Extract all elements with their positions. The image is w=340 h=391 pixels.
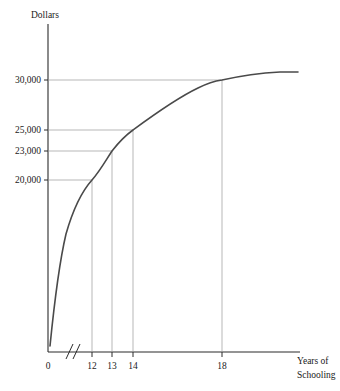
- x-tick-label-0: 0: [46, 361, 51, 371]
- earnings-curve: [50, 72, 298, 346]
- x-axis-title-line1: Years of: [297, 356, 329, 366]
- x-tick-label-14: 14: [128, 361, 138, 371]
- chart-container: Dollars 30,000 25,000 23,000 20,000: [0, 0, 340, 391]
- x-tick-label-12: 12: [87, 361, 97, 371]
- x-tick-label-18: 18: [217, 361, 227, 371]
- y-tick-label-30000: 30,000: [15, 75, 41, 85]
- x-tick-label-13: 13: [107, 361, 117, 371]
- y-tick-label-25000: 25,000: [15, 125, 41, 135]
- y-axis-title: Dollars: [31, 10, 59, 20]
- earnings-schooling-chart: Dollars 30,000 25,000 23,000 20,000: [0, 0, 340, 391]
- y-tick-label-20000: 20,000: [15, 175, 41, 185]
- x-axis-title-line2: Schooling: [297, 370, 336, 380]
- y-tick-label-23000: 23,000: [15, 146, 41, 156]
